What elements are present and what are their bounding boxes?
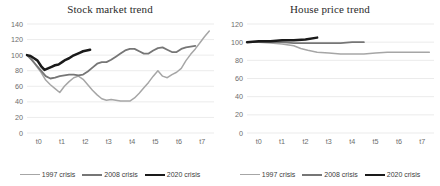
legend-item-2008[interactable]: 2008 crisis [82,171,137,178]
x-axis-tick-label: t6 [396,137,402,146]
x-axis-tick-label: t2 [302,137,308,146]
legend-label-2020: 2020 crisis [167,171,200,178]
y-axis-tick-label: 20 [15,113,23,122]
stock-market-chart-svg: 020406080100120140t0t1t2t3t4t5t6t7 [0,20,220,155]
y-axis-tick-label: 120 [231,20,243,29]
y-axis-tick-label: 60 [15,82,23,91]
legend-label-1997: 1997 crisis [42,171,75,178]
legend-swatch-2008 [82,174,102,176]
x-axis-tick-label: t7 [419,137,425,146]
x-axis-tick-label: t2 [82,137,88,146]
x-axis-tick-label: t1 [59,137,65,146]
y-axis-tick-label: 80 [15,66,23,75]
chart-title-stock-market: Stock market trend [0,3,220,15]
legend-label-1997: 1997 crisis [262,171,295,178]
legend-swatch-2020 [145,174,165,176]
x-axis-tick-label: t3 [326,137,332,146]
chart-panel-house-price: House price trend 020406080100120t0t1t2t… [220,0,440,186]
legend-swatch-2020 [365,174,385,176]
x-axis-tick-label: t4 [129,137,135,146]
legend-swatch-1997 [240,174,260,175]
y-axis-tick-label: 120 [11,35,23,44]
legend-item-2020[interactable]: 2020 crisis [365,171,420,178]
legend-label-2008: 2008 crisis [104,171,137,178]
y-axis-tick-label: 60 [235,74,243,83]
house-price-chart-svg: 020406080100120t0t1t2t3t4t5t6t7 [220,20,440,155]
legend-stock-market: 1997 crisis 2008 crisis 2020 crisis [0,171,220,178]
y-axis-tick-label: 0 [19,129,23,138]
x-axis-tick-label: t4 [349,137,355,146]
legend-swatch-2008 [302,174,322,176]
plot-area-house-price: 020406080100120t0t1t2t3t4t5t6t7 [220,20,440,155]
x-axis-tick-label: t0 [256,137,262,146]
x-axis-tick-label: t5 [373,137,379,146]
y-axis-tick-label: 0 [239,129,243,138]
legend-item-2020[interactable]: 2020 crisis [145,171,200,178]
x-axis-tick-label: t7 [199,137,205,146]
chart-title-house-price: House price trend [220,3,440,15]
y-axis-tick-label: 20 [235,110,243,119]
x-axis-tick-label: t5 [153,137,159,146]
plot-area-stock-market: 020406080100120140t0t1t2t3t4t5t6t7 [0,20,220,155]
two-chart-figure: Stock market trend 020406080100120140t0t… [0,0,440,186]
legend-item-1997[interactable]: 1997 crisis [20,171,75,178]
y-axis-tick-label: 40 [15,97,23,106]
legend-house-price: 1997 crisis 2008 crisis 2020 crisis [220,171,440,178]
x-axis-tick-label: t3 [106,137,112,146]
y-axis-tick-label: 40 [235,92,243,101]
y-axis-tick-label: 100 [231,38,243,47]
y-axis-tick-label: 100 [11,51,23,60]
series-line [247,38,317,43]
legend-swatch-1997 [20,174,40,175]
x-axis-tick-label: t1 [279,137,285,146]
legend-label-2020: 2020 crisis [387,171,420,178]
y-axis-tick-label: 80 [235,56,243,65]
chart-panel-stock-market: Stock market trend 020406080100120140t0t… [0,0,220,186]
x-axis-tick-label: t6 [176,137,182,146]
y-axis-tick-label: 140 [11,20,23,29]
series-line [27,46,195,79]
legend-label-2008: 2008 crisis [324,171,357,178]
legend-item-1997[interactable]: 1997 crisis [240,171,295,178]
x-axis-tick-label: t0 [36,137,42,146]
legend-item-2008[interactable]: 2008 crisis [302,171,357,178]
